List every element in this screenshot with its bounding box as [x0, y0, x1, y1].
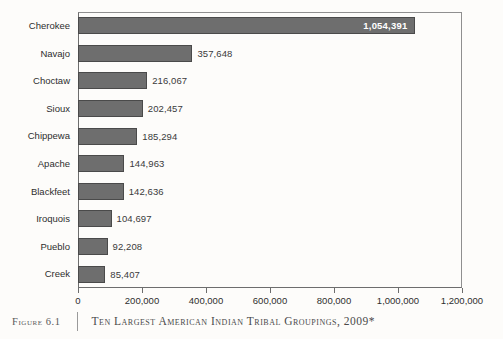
x-axis-tick: [270, 288, 271, 293]
category-label: Cherokee: [0, 12, 74, 40]
bar-value-label: 357,648: [197, 48, 232, 59]
category-label: Chippewa: [0, 122, 74, 150]
bar-value-label: 1,054,391: [363, 20, 407, 31]
bar: [78, 238, 108, 255]
bar: [78, 72, 147, 89]
caption-figure-number: Figure 6.1: [12, 316, 60, 327]
bar-row: 216,067: [78, 67, 462, 95]
bars-layer: 1,054,391357,648216,067202,457185,294144…: [78, 12, 462, 288]
category-label: Blackfeet: [0, 178, 74, 206]
bar-row: 185,294: [78, 122, 462, 150]
category-label: Choctaw: [0, 67, 74, 95]
category-label: Sioux: [0, 95, 74, 123]
x-axis-tick: [206, 288, 207, 293]
bar-value-label: 85,407: [110, 269, 140, 280]
bar-value-label: 142,636: [129, 186, 164, 197]
bar: [78, 266, 105, 283]
bar: [78, 100, 143, 117]
x-axis-tick: [462, 288, 463, 293]
bar-value-label: 185,294: [142, 131, 177, 142]
x-axis-tick: [142, 288, 143, 293]
x-axis-tick-label: 200,000: [125, 295, 159, 306]
bar: [78, 45, 192, 62]
bar-row: 357,648: [78, 40, 462, 68]
figure-container: CherokeeNavajoChoctawSiouxChippewaApache…: [0, 0, 503, 339]
x-axis: 0200,000400,000600,000800,0001,000,0001,…: [78, 288, 462, 312]
bar: [78, 128, 137, 145]
x-axis-tick: [334, 288, 335, 293]
bar-row: 144,963: [78, 150, 462, 178]
bar-value-label: 144,963: [129, 158, 164, 169]
bar-row: 202,457: [78, 95, 462, 123]
category-label: Pueblo: [0, 233, 74, 261]
category-axis-labels: CherokeeNavajoChoctawSiouxChippewaApache…: [0, 12, 74, 288]
x-axis-tick-label: 1,200,000: [441, 295, 483, 306]
x-axis-tick-label: 600,000: [253, 295, 287, 306]
bar-row: 92,208: [78, 233, 462, 261]
x-axis-tick-label: 400,000: [189, 295, 223, 306]
x-axis-tick: [398, 288, 399, 293]
bar-row: 85,407: [78, 260, 462, 288]
caption-divider: [77, 312, 78, 331]
x-axis-tick-label: 0: [75, 295, 80, 306]
bar-value-label: 104,697: [117, 213, 152, 224]
bar: [78, 210, 112, 227]
category-label: Iroquois: [0, 205, 74, 233]
bar-row: 1,054,391: [78, 12, 462, 40]
bar: [78, 183, 124, 200]
bar-value-label: 216,067: [152, 75, 187, 86]
category-label: Creek: [0, 260, 74, 288]
x-axis-tick-label: 800,000: [317, 295, 351, 306]
caption-title: Ten Largest American Indian Tribal Group…: [91, 315, 375, 327]
bar-row: 142,636: [78, 178, 462, 206]
figure-caption: Figure 6.1 Ten Largest American Indian T…: [12, 310, 492, 332]
bar-value-label: 92,208: [113, 241, 143, 252]
bar-row: 104,697: [78, 205, 462, 233]
bar: [78, 155, 124, 172]
x-axis-tick-label: 1,000,000: [377, 295, 419, 306]
x-axis-tick: [78, 288, 79, 293]
bar-value-label: 202,457: [148, 103, 183, 114]
category-label: Navajo: [0, 40, 74, 68]
category-label: Apache: [0, 150, 74, 178]
